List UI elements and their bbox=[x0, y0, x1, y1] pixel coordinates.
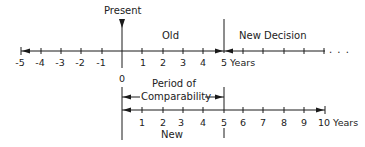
bottom-tick-label: 3 bbox=[178, 117, 184, 128]
present-label: Present bbox=[104, 5, 142, 17]
bottom-tick-label: 7 bbox=[260, 117, 266, 128]
period-label-line2: Comparability bbox=[141, 91, 211, 103]
old-right-arrowhead bbox=[215, 49, 223, 54]
top-tick-label: 2 bbox=[160, 57, 166, 68]
top-axis-left-arrowhead bbox=[22, 49, 30, 54]
period-left-arrowhead bbox=[123, 95, 131, 100]
bottom-tick-label: 8 bbox=[281, 117, 287, 128]
bottom-tick-label: 5 bbox=[221, 117, 227, 128]
top-tick-label: 1 bbox=[140, 57, 146, 68]
new-label: New bbox=[161, 129, 183, 141]
top-tick-label: -4 bbox=[35, 57, 44, 68]
bottom-tick-label: 9 bbox=[301, 117, 307, 128]
period-label-line1: Period of bbox=[152, 78, 196, 90]
bottom-axis-left-arrowhead bbox=[123, 108, 131, 113]
bottom-tick-label: 1 bbox=[139, 117, 145, 128]
top-tick-label: 4 bbox=[200, 57, 206, 68]
top-tick-label: -5 bbox=[15, 57, 24, 68]
new-decision-label: New Decision bbox=[239, 30, 307, 42]
five-years-label: 5 Years bbox=[221, 57, 255, 69]
present-arrowhead bbox=[119, 19, 125, 28]
top-tick-label: -2 bbox=[75, 57, 84, 68]
ellipsis-label: . . . bbox=[329, 44, 350, 56]
new-decision-left-arrowhead bbox=[225, 49, 233, 54]
top-tick-label: -1 bbox=[96, 57, 105, 68]
top-tick-label: 3 bbox=[180, 57, 186, 68]
bottom-axis-right-arrowhead bbox=[316, 108, 324, 113]
top-tick-label: -3 bbox=[55, 57, 64, 68]
zero-label: 0 bbox=[119, 73, 125, 85]
bottom-tick-label: 4 bbox=[200, 117, 206, 128]
period-right-arrowhead bbox=[215, 95, 223, 100]
ten-years-label: 10 Years bbox=[318, 117, 358, 129]
bottom-tick-label: 6 bbox=[240, 117, 246, 128]
bottom-tick-label: 2 bbox=[160, 117, 166, 128]
old-label: Old bbox=[162, 30, 179, 42]
